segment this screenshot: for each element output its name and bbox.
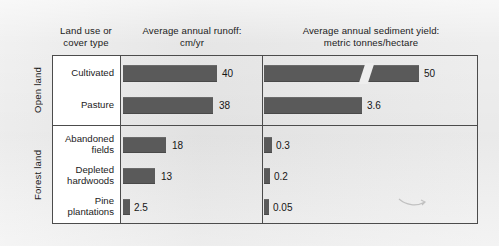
table-row: Pine plantations 2.5 0.05 xyxy=(52,195,478,221)
header-runoff-line1: Average annual runoff: xyxy=(122,25,262,37)
value-runoff-abandoned-fields: 18 xyxy=(172,141,183,151)
chart-figure: Land use or cover type Average annual ru… xyxy=(0,0,499,246)
bar-sediment-pasture xyxy=(264,97,362,114)
bar-runoff-pine-plantations xyxy=(123,199,130,215)
bar-runoff-cultivated xyxy=(123,65,217,82)
table-row: Pasture 38 3.6 xyxy=(52,94,478,120)
header-category-line2: cover type xyxy=(52,37,120,49)
value-runoff-depleted-hardwoods: 13 xyxy=(161,172,172,182)
header-runoff-line2: cm/yr xyxy=(122,37,262,49)
table-row: Depleted hardwoods 13 0.2 xyxy=(52,164,478,190)
value-sediment-pasture: 3.6 xyxy=(367,101,381,111)
header-sediment: Average annual sediment yield: metric to… xyxy=(264,25,478,48)
value-runoff-cultivated: 40 xyxy=(222,69,233,79)
bar-sediment-cultivated xyxy=(264,65,419,82)
bar-sediment-depleted-hardwoods xyxy=(264,168,270,184)
bar-runoff-pasture xyxy=(123,97,213,114)
header-sediment-line2: metric tonnes/hectare xyxy=(264,37,478,49)
row-label-pine-plantations: Pine plantations xyxy=(52,195,114,218)
group-label-open-land: Open land xyxy=(32,57,46,123)
value-sediment-abandoned-fields: 0.3 xyxy=(276,141,290,151)
table-row: Cultivated 40 50 xyxy=(52,62,478,88)
bar-runoff-abandoned-fields xyxy=(123,137,166,153)
row-label-abandoned-fields: Abandoned fields xyxy=(52,133,114,156)
value-sediment-depleted-hardwoods: 0.2 xyxy=(274,172,288,182)
bar-sediment-pine-plantations xyxy=(264,199,269,215)
header-runoff: Average annual runoff: cm/yr xyxy=(122,25,262,48)
bar-runoff-depleted-hardwoods xyxy=(123,168,155,184)
value-runoff-pasture: 38 xyxy=(219,101,230,111)
header-category: Land use or cover type xyxy=(52,25,120,48)
group-divider xyxy=(52,125,478,126)
row-label-depleted-hardwoods: Depleted hardwoods xyxy=(52,164,114,187)
row-label-cultivated: Cultivated xyxy=(52,67,114,78)
row-label-pasture: Pasture xyxy=(52,99,114,110)
table-row: Abandoned fields 18 0.3 xyxy=(52,133,478,159)
value-runoff-pine-plantations: 2.5 xyxy=(134,203,148,213)
group-label-forest-land: Forest land xyxy=(32,128,46,222)
bar-sediment-abandoned-fields xyxy=(264,137,272,153)
header-category-line1: Land use or xyxy=(52,25,120,37)
header-sediment-line1: Average annual sediment yield: xyxy=(264,25,478,37)
value-sediment-pine-plantations: 0.05 xyxy=(273,203,292,213)
value-sediment-cultivated: 50 xyxy=(424,69,435,79)
